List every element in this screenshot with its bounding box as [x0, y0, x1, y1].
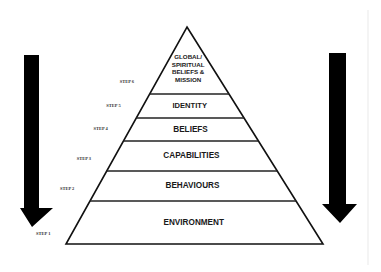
right-arrow-down-icon [322, 53, 357, 223]
step-label-5: STEP 5 [106, 103, 121, 108]
tier-label-line: BELIEFS [173, 125, 208, 134]
step-label-6: STEP 6 [120, 79, 135, 84]
step-label-2: STEP 2 [60, 186, 75, 191]
step-label-1: STEP 1 [36, 231, 51, 236]
tier-label-line: CAPABILITIES [163, 151, 220, 160]
tier-label-line: ENVIRONMENT [164, 218, 225, 227]
tier-label-global-spiritual-beliefs-mission: GLOBAL/SPIRITUALBELIEFS &MISSION [172, 53, 205, 83]
tier-label-behaviours: BEHAVIOURS [166, 181, 221, 190]
tier-label-line: IDENTITY [172, 101, 207, 110]
pyramid-diagram: GLOBAL/SPIRITUALBELIEFS &MISSIONIDENTITY… [0, 0, 381, 272]
step-label-4: STEP 4 [93, 126, 108, 131]
tier-label-line: MISSION [175, 76, 202, 83]
tier-label-beliefs: BELIEFS [173, 125, 208, 134]
tier-label-environment: ENVIRONMENT [164, 218, 225, 227]
tier-label-identity: IDENTITY [172, 101, 207, 110]
tier-label-line: GLOBAL/ [174, 53, 202, 60]
tier-label-capabilities: CAPABILITIES [163, 151, 220, 160]
tier-label-line: SPIRITUAL [172, 60, 205, 67]
left-arrow-down-icon [20, 55, 53, 227]
tier-label-line: BELIEFS & [172, 68, 205, 75]
step-label-3: STEP 3 [77, 156, 92, 161]
tier-label-line: BEHAVIOURS [166, 181, 221, 190]
